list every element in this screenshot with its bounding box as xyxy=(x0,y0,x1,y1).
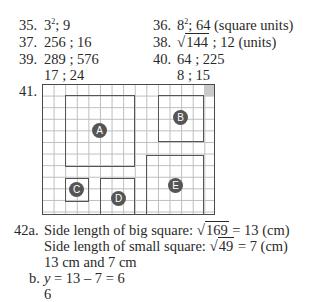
answer-42b-equation: y = 13 – 7 = 6 xyxy=(44,270,125,286)
answer-42a-big-square: Side length of big square: √169 = 13 (cm… xyxy=(44,222,290,238)
sqrt-symbol: √49 xyxy=(210,238,235,254)
answer-36: 82; 64 (square units) xyxy=(177,17,293,33)
question-number-35: 35. xyxy=(19,17,37,33)
question-number-40: 40. xyxy=(153,51,171,67)
variable-y: y xyxy=(44,270,50,286)
question-number-42a: 42a. xyxy=(14,222,39,238)
big-square-radicand: 169 xyxy=(205,221,229,238)
question-number-41: 41. xyxy=(19,83,37,99)
question-number-38: 38. xyxy=(153,34,171,50)
sqrt-symbol: √144 xyxy=(177,34,209,50)
answer-42a-final: 13 cm and 7 cm xyxy=(44,254,137,270)
square-e: E xyxy=(146,155,204,215)
square-c: C xyxy=(65,178,89,202)
answer-38-radicand: 144 xyxy=(185,33,209,50)
square-d: D xyxy=(100,178,135,215)
small-square-radicand: 49 xyxy=(218,237,235,254)
answer-35: 32; 9 xyxy=(44,17,70,33)
answer-42a-small-square: Side length of small square: √49 = 7 (cm… xyxy=(44,238,288,254)
label-badge-b: B xyxy=(173,110,188,125)
answer-37: 256 ; 16 xyxy=(44,34,92,50)
answer-38-rest: ; 12 (units) xyxy=(213,34,277,50)
label-badge-a: A xyxy=(92,123,107,138)
answer-39-line2: 17 ; 24 xyxy=(44,67,84,83)
small-square-label: Side length of small square: xyxy=(44,238,206,254)
answer-36-rest: ; 64 (square units) xyxy=(188,17,293,33)
question-number-39: 39. xyxy=(19,51,37,67)
square-b: B xyxy=(158,95,204,142)
shaded-corner-cell xyxy=(204,85,214,96)
answer-39-line1: 289 ; 576 xyxy=(44,51,99,67)
square-a: A xyxy=(65,95,135,167)
small-square-result: = 7 (cm) xyxy=(238,238,288,254)
answer-38: √144 ; 12 (units) xyxy=(177,34,276,50)
question-number-42b: b. xyxy=(29,270,40,286)
equation-b: = 13 – 7 = 6 xyxy=(54,270,125,286)
question-number-37: 37. xyxy=(19,34,37,50)
label-badge-e: E xyxy=(168,178,183,193)
big-square-label: Side length of big square: xyxy=(44,222,193,238)
label-badge-c: C xyxy=(69,182,84,197)
answer-40-line1: 64 ; 225 xyxy=(177,51,225,67)
answer-42b-final: 6 xyxy=(44,286,51,302)
square-grid-diagram: A B C D E xyxy=(42,84,215,215)
answer-40-line2: 8 ; 15 xyxy=(177,67,210,83)
big-square-result: = 13 (cm) xyxy=(232,222,289,238)
question-number-36: 36. xyxy=(153,17,171,33)
label-badge-d: D xyxy=(111,191,126,206)
sqrt-symbol: √169 xyxy=(197,222,229,238)
answer-35-rest: ; 9 xyxy=(55,17,70,33)
